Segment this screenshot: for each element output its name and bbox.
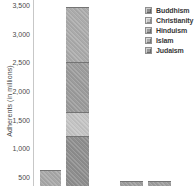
legend-swatch-icon: [145, 17, 152, 24]
legend-label: Hinduism: [156, 27, 187, 34]
legend-item: Christianity: [145, 17, 193, 24]
y-tick-label: 3,500: [0, 1, 30, 8]
bar-segment: [66, 62, 89, 112]
bar-segment: [66, 136, 89, 186]
legend: BuddhismChristianityHinduismIslamJudaism: [145, 7, 193, 57]
y-axis-title: Adherents (in millions): [6, 65, 13, 137]
legend-swatch-icon: [145, 47, 152, 54]
y-axis-line: [33, 0, 34, 186]
legend-item: Judaism: [145, 47, 193, 54]
legend-item: Hinduism: [145, 27, 193, 34]
legend-swatch-icon: [145, 7, 152, 14]
legend-label: Buddhism: [156, 7, 189, 14]
y-tick-label: 2,000: [0, 87, 30, 94]
y-tick-label: 1,500: [0, 116, 30, 123]
legend-label: Christianity: [156, 17, 193, 24]
bar-segment: [40, 170, 61, 186]
bar-segment: [120, 181, 143, 186]
y-tick-label: 1,000: [0, 145, 30, 152]
legend-label: Judaism: [156, 47, 184, 54]
bar-segment: [66, 7, 89, 62]
legend-label: Islam: [156, 37, 173, 44]
legend-swatch-icon: [145, 37, 152, 44]
y-tick-label: 2,500: [0, 59, 30, 66]
legend-item: Buddhism: [145, 7, 193, 14]
bar-segment: [148, 181, 171, 186]
legend-swatch-icon: [145, 27, 152, 34]
y-tick-label: 500: [0, 174, 30, 181]
stacked-bar-chart: Adherents (in millions) 3,5003,0002,5002…: [0, 0, 195, 186]
legend-item: Islam: [145, 37, 193, 44]
bar-segment: [66, 112, 89, 136]
y-tick-label: 3,000: [0, 30, 30, 37]
